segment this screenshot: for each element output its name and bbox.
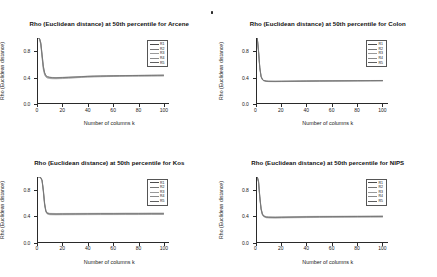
series-line-r2 (38, 177, 164, 214)
legend-item: R5 (368, 61, 384, 66)
x-axis-tick-label: 20 (278, 245, 284, 251)
series-line-r4 (38, 38, 164, 79)
y-axis-tick (34, 216, 37, 217)
legend-item-label: R5 (160, 199, 164, 204)
legend-item: R5 (368, 199, 384, 204)
x-axis-tick-label: 80 (354, 245, 360, 251)
panel-title: Rho (Euclidean distance) at 50th percent… (0, 20, 219, 27)
x-axis-tick-label: 60 (329, 245, 335, 251)
series-line-r4 (38, 177, 164, 215)
panel-arcene: Rho (Euclidean distance) at 50th percent… (0, 0, 219, 139)
x-axis-tick-label: 100 (378, 107, 386, 113)
y-axis-tick (253, 216, 256, 217)
legend-line-sample (150, 53, 159, 54)
x-axis-tick-label: 80 (136, 107, 142, 113)
y-axis-tick-label: 0.4 (23, 75, 30, 81)
legend-line-sample (368, 201, 377, 202)
legend-line-sample (150, 187, 159, 188)
y-axis-tick-label: 0.4 (242, 213, 249, 219)
legend: R1R2R3R4R5 (147, 40, 168, 67)
legend-line-sample (150, 201, 159, 202)
panel-title: Rho (Euclidean distance) at 50th percent… (219, 20, 437, 27)
legend-line-sample (150, 49, 159, 50)
series-line-r1 (257, 38, 383, 81)
x-axis-tick-label: 60 (110, 245, 116, 251)
y-axis-tick-label: 0.0 (23, 101, 30, 107)
legend-line-sample (150, 192, 159, 193)
x-axis-tick-label: 0 (36, 245, 39, 251)
y-axis-tick (34, 51, 37, 52)
x-axis-tick-label: 0 (36, 107, 39, 113)
y-axis-title: Rho (Euclidean distance) (218, 42, 224, 100)
series-line-r4 (257, 38, 383, 82)
x-axis-tick-label: 60 (110, 107, 116, 113)
legend-line-sample (150, 182, 159, 183)
plot-area: R1R2R3R4R5 0.00.40.8020406080100 (256, 177, 388, 243)
x-axis-line (37, 242, 169, 243)
legend-line-sample (368, 187, 377, 188)
x-axis-tick-label: 0 (254, 245, 257, 251)
legend-line-sample (368, 192, 377, 193)
legend-line-sample (368, 49, 377, 50)
y-axis-tick-label: 0.8 (23, 48, 30, 54)
y-axis-tick-label: 0.8 (242, 48, 249, 54)
series-line-r3 (38, 38, 164, 78)
legend-line-sample (368, 58, 377, 59)
y-axis-tick-label: 0.0 (242, 101, 249, 107)
scan-artifact-speck (211, 11, 213, 14)
legend-item-label: R5 (379, 61, 383, 66)
legend-line-sample (368, 62, 377, 63)
series-line-r3 (257, 38, 383, 81)
x-axis-line (256, 103, 388, 104)
legend-line-sample (368, 196, 377, 197)
series-line-r1 (257, 177, 383, 217)
x-axis-tick-label: 0 (254, 107, 257, 113)
y-axis-tick-label: 0.4 (23, 213, 30, 219)
x-axis-tick-label: 60 (329, 107, 335, 113)
panel-nips: Rho (Euclidean distance) at 50th percent… (219, 139, 437, 277)
x-axis-tick-label: 40 (303, 245, 309, 251)
series-line-r5 (257, 177, 383, 217)
panel-title: Rho (Euclidean distance) at 50th percent… (219, 159, 437, 166)
legend-item: R5 (150, 199, 166, 204)
series-line-r5 (38, 177, 164, 214)
plot-area: R1R2R3R4R5 0.00.40.8020406080100 (37, 177, 169, 243)
legend-line-sample (368, 53, 377, 54)
x-axis-tick-label: 20 (60, 107, 66, 113)
x-axis-title: Number of columns k (0, 259, 219, 265)
series-line-r3 (257, 177, 383, 217)
y-axis-tick-label: 0.8 (23, 187, 30, 193)
x-axis-tick-label: 40 (85, 107, 91, 113)
y-axis-line (37, 38, 38, 104)
y-axis-tick (34, 78, 37, 79)
figure-panel-grid: Rho (Euclidean distance) at 50th percent… (0, 0, 437, 277)
x-axis-tick-label: 40 (85, 245, 91, 251)
y-axis-tick (253, 78, 256, 79)
panel-kos: Rho (Euclidean distance) at 50th percent… (0, 139, 219, 277)
x-axis-title: Number of columns k (219, 120, 437, 126)
y-axis-tick-label: 0.0 (23, 240, 30, 246)
legend-line-sample (368, 44, 377, 45)
series-line-r5 (257, 38, 383, 81)
legend: R1R2R3R4R5 (147, 179, 168, 206)
series-line-r1 (38, 38, 164, 78)
y-axis-line (37, 177, 38, 243)
y-axis-title: Rho (Euclidean distance) (0, 181, 5, 239)
x-axis-tick-label: 80 (136, 245, 142, 251)
series-line-r2 (257, 177, 383, 218)
x-axis-tick-label: 100 (160, 245, 168, 251)
series-line-r3 (38, 177, 164, 214)
legend-line-sample (150, 58, 159, 59)
series-line-r2 (257, 38, 383, 82)
y-axis-title: Rho (Euclidean distance) (218, 181, 224, 239)
x-axis-tick-label: 40 (303, 107, 309, 113)
x-axis-line (256, 242, 388, 243)
legend: R1R2R3R4R5 (366, 40, 387, 67)
y-axis-tick-label: 0.0 (242, 240, 249, 246)
x-axis-tick-label: 20 (278, 107, 284, 113)
panel-colon: Rho (Euclidean distance) at 50th percent… (219, 0, 437, 139)
legend: R1R2R3R4R5 (366, 179, 387, 206)
x-axis-title: Number of columns k (0, 120, 219, 126)
y-axis-tick-label: 0.4 (242, 75, 249, 81)
y-axis-tick (34, 190, 37, 191)
